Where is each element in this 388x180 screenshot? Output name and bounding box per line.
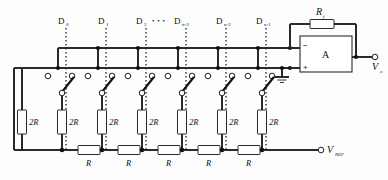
- switch-d1-contact-ground[interactable]: [85, 73, 91, 79]
- switch-d2-contact-ground[interactable]: [125, 73, 131, 79]
- label-rf-sub: f: [323, 14, 325, 19]
- shunt-2r-3-body: [178, 110, 187, 134]
- switch-dn1[interactable]: [245, 73, 275, 110]
- junction-dot-bus-4: [216, 46, 220, 50]
- label-ellipsis: • • •: [152, 17, 165, 25]
- switch-dn1-contact-ground[interactable]: [245, 73, 251, 79]
- switch-d0-contact-ground[interactable]: [45, 73, 51, 79]
- label-opamp-minus: −: [303, 41, 308, 50]
- vout-terminal[interactable]: [372, 54, 378, 60]
- ground-bus-dot-5: [256, 66, 260, 70]
- label-d2-base: D: [136, 16, 143, 26]
- series-r-3-body: [198, 146, 220, 155]
- ladder-node-dot-4: [220, 148, 225, 153]
- label-d0-sub: 0: [66, 22, 69, 27]
- reference-rail: [14, 146, 324, 155]
- switch-dn3-blade[interactable]: [182, 78, 194, 93]
- label-opamp-symbol: A: [322, 49, 330, 60]
- label-d2-sub: 2: [144, 22, 147, 27]
- label-dn1-base: D: [256, 16, 263, 26]
- switch-dn2-contact-ground[interactable]: [205, 73, 211, 79]
- ground-bus: [14, 66, 296, 150]
- label-2r-5: 2R: [269, 117, 279, 127]
- shunt-2r-5-body: [258, 110, 267, 134]
- switch-dn3-pole[interactable]: [179, 90, 185, 96]
- label-opamp-plus: +: [303, 63, 308, 72]
- ladder-node-dot-2: [140, 148, 145, 153]
- ladder-node-dot-5: [260, 148, 265, 153]
- label-dn3-sub: n-3: [182, 22, 189, 27]
- switch-dn2-blade[interactable]: [222, 78, 234, 93]
- summing-bus: [58, 46, 296, 68]
- label-r-2: R: [165, 158, 172, 168]
- opamp-ground-dot: [280, 66, 284, 70]
- schematic-svg: D 0 D 1 D 2 • • • D n-3 D n-2 D n-1 2R 2…: [0, 0, 388, 180]
- label-2r-2: 2R: [149, 117, 159, 127]
- label-2r-3: 2R: [189, 117, 199, 127]
- shunt-2r-1-body: [98, 110, 107, 134]
- ground-bus-dot-2: [136, 66, 140, 70]
- switch-d1-blade[interactable]: [102, 78, 114, 93]
- label-2r-4: 2R: [229, 117, 239, 127]
- switch-d1-pole[interactable]: [99, 90, 105, 96]
- switch-dn1-blade[interactable]: [262, 78, 274, 93]
- label-dn2-base: D: [216, 16, 223, 26]
- label-r-3: R: [205, 158, 212, 168]
- junction-dot-bus-5: [256, 46, 260, 50]
- opamp-output-junction: [354, 55, 358, 59]
- label-rf-base: R: [315, 6, 322, 17]
- switch-dn3[interactable]: [165, 73, 195, 110]
- label-2r-term: 2R: [29, 117, 39, 127]
- ladder-node-dot-0: [60, 148, 65, 153]
- junction-dot-bus-1: [96, 46, 100, 50]
- label-vref-base: V: [327, 144, 335, 155]
- label-vref-sub: REF: [334, 152, 345, 157]
- label-r-4: R: [245, 158, 252, 168]
- series-r-1-body: [118, 146, 140, 155]
- feedback-resistor-body: [310, 20, 334, 29]
- shunt-2r-term-body: [18, 110, 27, 134]
- switch-d0-blade[interactable]: [62, 78, 74, 93]
- switch-d2-pole[interactable]: [139, 90, 145, 96]
- switch-dn2-pole[interactable]: [219, 90, 225, 96]
- label-d1-base: D: [98, 16, 105, 26]
- label-r-1: R: [125, 158, 132, 168]
- ladder-node-dot-1: [100, 148, 105, 153]
- label-vout-sub: o: [380, 69, 383, 74]
- switch-bank[interactable]: [45, 73, 275, 110]
- label-2r-1: 2R: [109, 117, 119, 127]
- switch-d0[interactable]: [45, 73, 75, 110]
- label-d0-base: D: [58, 16, 65, 26]
- label-d1-sub: 1: [106, 22, 109, 27]
- series-r-0-body: [78, 146, 100, 155]
- shunt-2r-2-body: [138, 110, 147, 134]
- ground-bus-dot-0: [56, 66, 60, 70]
- switch-dn3-contact-ground[interactable]: [165, 73, 171, 79]
- shunt-2r-0-body: [58, 110, 67, 134]
- vref-terminal[interactable]: [318, 147, 324, 153]
- switch-d2-blade[interactable]: [142, 78, 154, 93]
- series-r-2-body: [158, 146, 180, 155]
- switch-d2[interactable]: [125, 73, 155, 110]
- label-dn2-sub: n-2: [224, 22, 231, 27]
- label-r-0: R: [85, 158, 92, 168]
- label-dn1-sub: n-1: [264, 22, 271, 27]
- digital-control-lines: [66, 28, 266, 150]
- label-vout-base: V: [372, 61, 380, 72]
- series-r-4-body: [238, 146, 260, 155]
- circuit-diagram-canvas: D 0 D 1 D 2 • • • D n-3 D n-2 D n-1 2R 2…: [0, 0, 388, 180]
- ladder-node-dot-3: [180, 148, 185, 153]
- switch-d1[interactable]: [85, 73, 115, 110]
- labels: D 0 D 1 D 2 • • • D n-3 D n-2 D n-1 2R 2…: [29, 6, 383, 168]
- label-dn3-base: D: [174, 16, 181, 26]
- ground-bus-dot-3: [176, 66, 180, 70]
- junction-dot-bus-3: [176, 46, 180, 50]
- ground-bus-dot-4: [216, 66, 220, 70]
- label-2r-0: 2R: [69, 117, 79, 127]
- switch-dn2[interactable]: [205, 73, 235, 110]
- shunt-2r-4-body: [218, 110, 227, 134]
- switch-d0-pole[interactable]: [59, 90, 65, 96]
- junction-dot-bus-2: [136, 46, 140, 50]
- switch-dn1-pole[interactable]: [259, 90, 265, 96]
- ground-bus-dot-1: [96, 66, 100, 70]
